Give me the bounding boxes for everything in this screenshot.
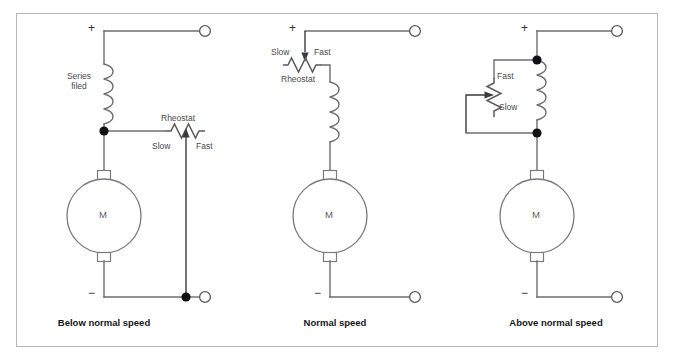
circuit-diagram-svg — [0, 0, 675, 361]
terminal-negative-3[interactable] — [612, 292, 623, 303]
rheostat-fast-label-3: Fast — [497, 72, 514, 82]
terminal-positive-2[interactable] — [410, 26, 421, 37]
series-field-coil-2 — [330, 82, 339, 142]
rheostat-slow-label-1: Slow — [152, 142, 170, 152]
series-field-coil-1 — [104, 64, 113, 124]
motor-label-3: M — [532, 210, 540, 221]
polarity-positive-1: + — [88, 22, 95, 35]
polarity-negative-2: − — [314, 287, 321, 300]
motor-top-brush-1 — [98, 171, 111, 180]
motor-bottom-brush-1 — [98, 253, 111, 262]
series-field-coil-3 — [537, 60, 546, 120]
rheostat-symbol-2 — [283, 58, 322, 72]
rheostat-fast-label-1: Fast — [196, 142, 213, 152]
motor-label-2: M — [325, 210, 333, 221]
circuit-below-normal-speed — [67, 26, 210, 303]
terminal-negative-2[interactable] — [410, 292, 421, 303]
motor-top-brush-2 — [324, 171, 337, 180]
polarity-negative-1: − — [88, 287, 95, 300]
terminal-positive-1[interactable] — [200, 26, 211, 37]
junction-dot-top-1 — [99, 126, 108, 135]
circuit-above-normal-speed — [466, 26, 622, 303]
terminal-negative-1[interactable] — [200, 292, 211, 303]
rheostat-label-2: Rheostat — [281, 75, 315, 85]
rheostat-to-coil-wire-2 — [322, 65, 330, 82]
motor-bottom-brush-2 — [324, 253, 337, 262]
polarity-positive-2: + — [289, 22, 296, 35]
junction-dot-bottom-3 — [532, 128, 541, 137]
terminal-positive-3[interactable] — [612, 26, 623, 37]
polarity-negative-3: − — [521, 287, 528, 300]
series-field-label-line2-1: filed — [61, 82, 97, 92]
junction-dot-top-3 — [532, 55, 541, 64]
motor-label-1: M — [99, 210, 107, 221]
rheostat-wiper-wire-3 — [466, 95, 485, 133]
caption-below-normal-speed: Below normal speed — [44, 317, 164, 328]
rheostat-slow-label-2: Slow — [271, 48, 289, 58]
circuit-normal-speed — [283, 26, 420, 303]
rheostat-slow-label-3: Slow — [499, 103, 517, 113]
junction-dot-bottom-1 — [181, 292, 190, 301]
diagram-page: + − Series filed Rheostat Slow Fast M Be… — [0, 0, 675, 361]
polarity-positive-3: + — [521, 22, 528, 35]
motor-top-brush-3 — [531, 171, 544, 180]
rheostat-label-1: Rheostat — [161, 114, 195, 124]
rheostat-fast-label-2: Fast — [314, 48, 331, 58]
motor-bottom-brush-3 — [531, 253, 544, 262]
caption-above-normal-speed: Above normal speed — [491, 317, 621, 328]
caption-normal-speed: Normal speed — [290, 317, 380, 328]
